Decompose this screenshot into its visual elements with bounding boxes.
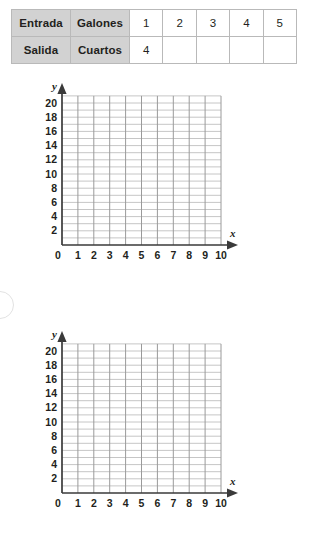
y-tick-8: 8 <box>51 182 57 194</box>
cell-salida-2[interactable] <box>163 37 196 64</box>
y-axis-label: y <box>50 330 57 340</box>
x-tick-2: 2 <box>91 249 97 261</box>
y-tick-10: 10 <box>45 416 57 428</box>
y-tick-14: 14 <box>45 387 57 399</box>
page-number-bubble <box>0 291 14 319</box>
cell-entrada-3: 3 <box>196 10 229 37</box>
y-tick-4: 4 <box>51 458 57 470</box>
origin-label: 0 <box>55 497 61 509</box>
cell-salida-3[interactable] <box>196 37 229 64</box>
y-axis-label: y <box>50 82 57 92</box>
graph-2-svg: yx2468101214161820012345678910 <box>26 330 241 522</box>
graph-2[interactable]: yx2468101214161820012345678910 <box>26 330 241 522</box>
y-tick-2: 2 <box>51 472 57 484</box>
cell-entrada-5: 5 <box>263 10 296 37</box>
row-unit-galones: Galones <box>71 10 130 37</box>
x-tick-8: 8 <box>186 249 192 261</box>
cell-salida-5[interactable] <box>263 37 296 64</box>
y-tick-6: 6 <box>51 196 57 208</box>
input-output-table: Entrada Galones 1 2 3 4 5 Salida Cuartos… <box>11 9 297 64</box>
y-tick-6: 6 <box>51 444 57 456</box>
x-axis-label: x <box>229 227 236 239</box>
y-axis-arrow <box>57 83 66 94</box>
y-tick-18: 18 <box>45 111 57 123</box>
y-tick-12: 12 <box>45 401 57 413</box>
y-tick-14: 14 <box>45 139 57 151</box>
y-tick-18: 18 <box>45 359 57 371</box>
vertical-gridlines <box>78 96 221 245</box>
cell-entrada-4: 4 <box>230 10 263 37</box>
x-tick-7: 7 <box>170 497 176 509</box>
x-tick-4: 4 <box>123 249 129 261</box>
cell-entrada-2: 2 <box>163 10 196 37</box>
x-tick-7: 7 <box>170 249 176 261</box>
x-tick-9: 9 <box>202 249 208 261</box>
x-axis-label: x <box>229 475 236 487</box>
x-tick-3: 3 <box>107 497 113 509</box>
x-tick-3: 3 <box>107 249 113 261</box>
cell-salida-1[interactable]: 4 <box>130 37 163 64</box>
axis-lines <box>62 92 227 245</box>
table-row: Entrada Galones 1 2 3 4 5 <box>12 10 297 37</box>
x-tick-1: 1 <box>75 497 81 509</box>
x-tick-4: 4 <box>123 497 129 509</box>
vertical-gridlines <box>78 344 221 493</box>
y-tick-8: 8 <box>51 430 57 442</box>
y-tick-10: 10 <box>45 168 57 180</box>
row-label-salida: Salida <box>12 37 71 64</box>
graph-1[interactable]: yx2468101214161820012345678910 <box>26 82 241 274</box>
y-tick-4: 4 <box>51 210 57 222</box>
y-tick-20: 20 <box>45 345 57 357</box>
x-tick-1: 1 <box>75 249 81 261</box>
x-tick-6: 6 <box>154 497 160 509</box>
origin-label: 0 <box>55 249 61 261</box>
x-tick-8: 8 <box>186 497 192 509</box>
x-axis-arrow <box>227 240 238 249</box>
y-axis-arrow <box>57 331 66 342</box>
cell-entrada-1: 1 <box>130 10 163 37</box>
x-tick-10: 10 <box>215 249 227 261</box>
row-unit-cuartos: Cuartos <box>71 37 130 64</box>
y-tick-16: 16 <box>45 373 57 385</box>
y-tick-2: 2 <box>51 224 57 236</box>
axis-lines <box>62 340 227 493</box>
table-row: Salida Cuartos 4 <box>12 37 297 64</box>
y-tick-20: 20 <box>45 97 57 109</box>
graph-1-svg: yx2468101214161820012345678910 <box>26 82 241 274</box>
y-tick-16: 16 <box>45 125 57 137</box>
x-tick-2: 2 <box>91 497 97 509</box>
x-axis-arrow <box>227 488 238 497</box>
y-tick-12: 12 <box>45 153 57 165</box>
cell-salida-4[interactable] <box>230 37 263 64</box>
x-tick-5: 5 <box>139 249 145 261</box>
row-label-entrada: Entrada <box>12 10 71 37</box>
x-tick-6: 6 <box>154 249 160 261</box>
x-tick-5: 5 <box>139 497 145 509</box>
x-tick-10: 10 <box>215 497 227 509</box>
x-tick-9: 9 <box>202 497 208 509</box>
